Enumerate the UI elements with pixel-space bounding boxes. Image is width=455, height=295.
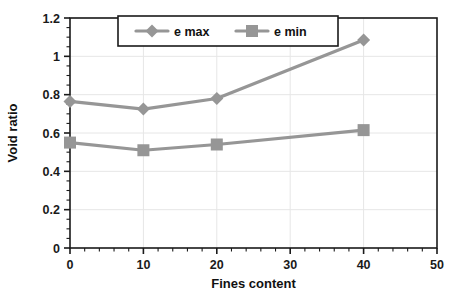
y-axis-tick-label: 0.8 (43, 88, 60, 102)
data-point-e-min (358, 124, 370, 136)
data-point-e-min (64, 137, 76, 149)
x-axis-tick-label: 30 (283, 258, 297, 272)
chart-canvas: 00.20.40.60.811.201020304050Fines conten… (0, 0, 455, 295)
legend-label-0: e max (174, 25, 209, 39)
y-axis-tick-label: 0.2 (43, 203, 60, 217)
legend-label-1: e min (274, 25, 307, 39)
data-point-e-min (137, 144, 149, 156)
x-axis-tick-label: 40 (357, 258, 371, 272)
y-axis-title: Void ratio (5, 103, 20, 162)
y-axis-tick-label: 1 (53, 50, 60, 64)
y-axis-tick-label: 0.6 (43, 127, 60, 141)
y-axis-tick-label: 1.2 (43, 12, 60, 26)
y-axis-tick-label: 0 (53, 242, 60, 256)
x-axis-title: Fines content (211, 276, 296, 291)
x-axis-tick-label: 50 (430, 258, 444, 272)
void-ratio-chart: 00.20.40.60.811.201020304050Fines conten… (0, 0, 455, 295)
y-axis-tick-label: 0.4 (43, 165, 60, 179)
x-axis-tick-label: 20 (210, 258, 224, 272)
x-axis-tick-label: 10 (136, 258, 150, 272)
data-point-e-min (211, 139, 223, 151)
x-axis-tick-label: 0 (67, 258, 74, 272)
legend-swatch-marker-1 (246, 25, 258, 37)
